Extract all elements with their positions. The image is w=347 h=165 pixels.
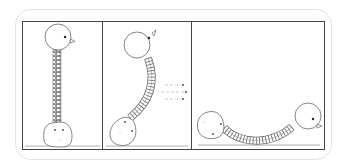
bird-head-icon: [124, 30, 156, 58]
blob-body-icon: [110, 117, 136, 145]
spring-icon: [130, 58, 152, 118]
panel-2: [106, 30, 188, 146]
spring-icon: [53, 50, 61, 122]
panel-3: [197, 103, 322, 145]
bird-head-icon: [45, 24, 75, 50]
bird-head-icon: [295, 103, 322, 129]
diagram-canvas: [0, 0, 347, 165]
panel-1: [25, 24, 100, 147]
blob-body-icon: [44, 122, 72, 147]
blob-body-icon: [197, 111, 223, 138]
motion-arrows-icon: [161, 85, 184, 99]
spring-icon: [224, 127, 292, 141]
